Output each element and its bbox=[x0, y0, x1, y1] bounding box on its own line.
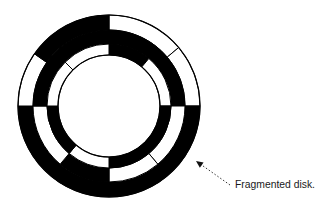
arrowhead-icon bbox=[196, 161, 204, 168]
disk-tracks bbox=[18, 15, 200, 197]
pointer-arrow bbox=[196, 161, 230, 185]
disk-hub-edge bbox=[58, 55, 160, 157]
arrow-dotted-line bbox=[200, 164, 230, 185]
figure-caption: Fragmented disk. bbox=[235, 178, 315, 190]
